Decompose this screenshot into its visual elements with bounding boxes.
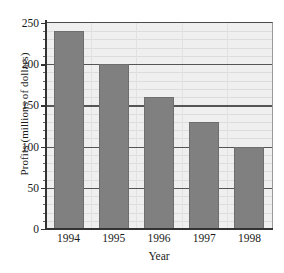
- y-axis-line: [45, 20, 47, 230]
- y-axis-tick-label: 100: [22, 141, 39, 153]
- x-axis-title: Year: [46, 249, 272, 263]
- x-axis-tick-label: 1995: [102, 232, 125, 245]
- y-axis-tick-label: 200: [22, 58, 39, 70]
- vertical-gridline: [91, 23, 92, 229]
- vertical-gridline: [227, 23, 228, 229]
- y-axis-tick-label: 150: [22, 99, 39, 111]
- y-axis-tick-label: 50: [28, 182, 40, 194]
- y-axis-title: Profits (millions of dollars): [16, 0, 32, 228]
- bar-1997: [189, 122, 219, 229]
- bar-1998: [234, 147, 264, 229]
- bar-1996: [144, 97, 174, 229]
- x-axis-line: [45, 228, 273, 230]
- x-axis-tick-label: 1994: [57, 232, 80, 245]
- y-axis-tick-label: 250: [22, 17, 39, 29]
- y-axis-tick-label: 0: [33, 223, 39, 235]
- x-axis-tick-label: 1996: [148, 232, 171, 245]
- x-axis-tick-label: 1998: [238, 232, 261, 245]
- vertical-gridline: [182, 23, 183, 229]
- x-axis-tick-label: 1997: [193, 232, 216, 245]
- vertical-gridline: [136, 23, 137, 229]
- bar-chart-figure: Profits (millions of dollars) 0501001502…: [0, 0, 284, 273]
- plot-area: 050100150200250: [46, 22, 273, 229]
- bar-1994: [54, 31, 84, 229]
- bar-1995: [99, 64, 129, 229]
